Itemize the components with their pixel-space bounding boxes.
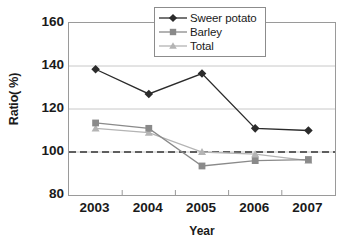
series-barley [92, 120, 312, 170]
data-point-marker [145, 90, 154, 99]
data-point-marker [252, 157, 259, 164]
x-axis-tick-label: 2006 [226, 200, 282, 215]
y-axis-tick-label: 140 [20, 58, 64, 72]
legend-item[interactable]: Total [158, 39, 261, 53]
data-point-marker [199, 163, 206, 170]
line-chart: Ratio( %) 80100120140160 200320042005200… [0, 0, 351, 251]
y-axis-tick-label: 120 [20, 101, 64, 115]
data-point-marker [169, 14, 177, 22]
data-point-marker [145, 125, 152, 132]
x-axis-title: Year [68, 224, 336, 238]
y-axis-tick-label: 100 [20, 144, 64, 158]
legend-label: Total [188, 40, 214, 52]
x-axis-tick-label: 2007 [279, 200, 335, 215]
y-axis-tick-labels: 80100120140160 [16, 0, 64, 251]
x-axis-tick-label: 2003 [67, 200, 123, 215]
x-axis-tick-labels: 20032004200520062007 [68, 200, 336, 222]
legend-swatch-diamond-icon [158, 11, 188, 25]
series-total [92, 124, 313, 163]
data-point-marker [92, 120, 99, 127]
legend-swatch-triangle-icon [158, 39, 188, 53]
x-axis-tick-label: 2005 [173, 200, 229, 215]
series-line [96, 128, 309, 160]
legend-item[interactable]: Barley [158, 25, 261, 39]
y-axis-tick-label: 160 [20, 15, 64, 29]
data-point-marker [305, 156, 312, 163]
x-axis-tick-label: 2004 [120, 200, 176, 215]
legend-label: Sweer potato [188, 12, 257, 24]
legend-item[interactable]: Sweer potato [158, 11, 261, 25]
series-line [96, 69, 309, 130]
y-axis-tick-label: 80 [20, 187, 64, 201]
legend-swatch-square-icon [158, 25, 188, 39]
series-sweer-potato [91, 65, 312, 135]
legend-label: Barley [188, 26, 222, 38]
chart-legend: Sweer potatoBarleyTotal [154, 7, 266, 57]
data-point-marker [170, 29, 176, 35]
data-point-marker [304, 126, 313, 135]
